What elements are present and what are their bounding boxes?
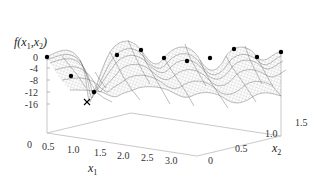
y-tick: 1.5 bbox=[295, 117, 308, 128]
x-tick: 3.0 bbox=[165, 155, 178, 166]
z-tick: -16 bbox=[25, 99, 38, 110]
y-tick: 0.5 bbox=[235, 143, 248, 154]
x-tick: 2.0 bbox=[117, 150, 130, 161]
y-tick: 0 bbox=[208, 155, 213, 166]
x-axis-label: x1 bbox=[87, 161, 97, 177]
origin-zero-label: 0 bbox=[27, 139, 32, 150]
z-tick: 0 bbox=[33, 52, 38, 63]
y-tick: 1.0 bbox=[265, 128, 278, 139]
x-tick: 1.0 bbox=[67, 144, 80, 155]
x-tick: 1.5 bbox=[94, 147, 107, 158]
y-axis-label: x2 bbox=[271, 141, 281, 157]
x-tick: 2.5 bbox=[141, 152, 154, 163]
x-tick-labels: 0.5 1.0 1.5 2.0 2.5 3.0 bbox=[42, 141, 178, 166]
z-tick: -8 bbox=[30, 75, 38, 86]
z-axis-label: f(x1,x2) bbox=[14, 35, 47, 51]
z-tick-labels: 0 -4 -8 -12 -16 bbox=[25, 52, 38, 110]
x-tick: 0.5 bbox=[42, 141, 55, 152]
z-axis-ticks bbox=[47, 68, 50, 104]
z-tick: -4 bbox=[30, 63, 38, 74]
z-tick: -12 bbox=[25, 87, 38, 98]
minimum-x-marker bbox=[84, 99, 90, 105]
surface-plot: f(x1,x2) 0 -4 -8 -12 -16 0.5 1.0 1.5 2.0… bbox=[0, 0, 325, 182]
